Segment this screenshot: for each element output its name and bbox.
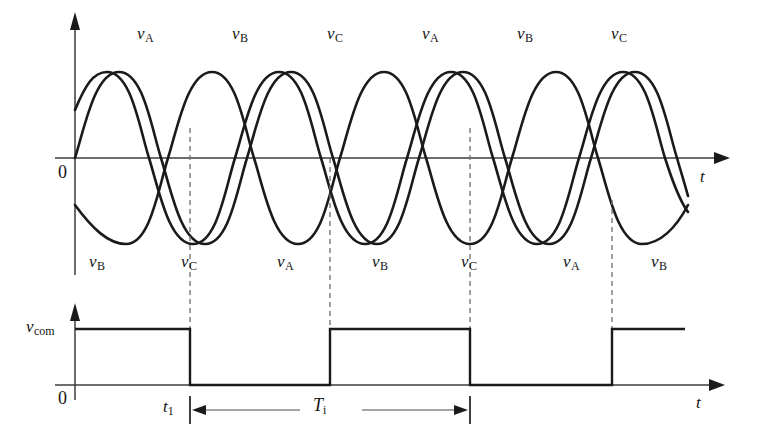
trough-label-vc-2: vC — [461, 253, 477, 272]
top-origin-label: 0 — [58, 163, 67, 181]
bottom-time-axis-label: t — [696, 394, 701, 411]
top-time-axis-arrow — [714, 152, 730, 164]
ti-dim-arrow-left — [192, 405, 206, 415]
peak-label-vb-2: vB — [517, 25, 533, 44]
peak-label-vc-2: vC — [611, 25, 627, 44]
bottom-panel-axes — [55, 303, 725, 400]
waveform-canvas — [0, 0, 767, 443]
trough-label-vb-2: vB — [372, 253, 388, 272]
vcom-axis-label: vcom — [26, 318, 55, 337]
ti-dim-arrow-right — [454, 405, 468, 415]
ti-annotation-label: Ti — [313, 396, 326, 416]
bottom-vertical-axis-arrow — [70, 303, 80, 321]
bottom-origin-label: 0 — [58, 389, 67, 407]
trough-label-vb-3: vB — [651, 253, 667, 272]
bottom-time-axis-arrow — [709, 379, 725, 391]
ti-dimension-line — [190, 396, 470, 424]
peak-label-vb-1: vB — [232, 25, 248, 44]
peak-label-va-2: vA — [422, 25, 439, 44]
waveform-figure: vA vB vC vA vB vC vB vC vA vB vC vA vB 0… — [0, 0, 767, 443]
peak-label-va-1: vA — [137, 25, 154, 44]
commutation-waveform — [75, 329, 685, 385]
top-vertical-axis-arrow — [70, 12, 80, 30]
trough-label-vb-1: vB — [89, 253, 105, 272]
t1-annotation-label: t1 — [163, 398, 174, 417]
trough-label-vc-1: vC — [181, 253, 197, 272]
trough-label-va-1: vA — [277, 253, 294, 272]
top-time-axis-label: t — [700, 168, 705, 185]
trough-label-va-2: vA — [563, 253, 580, 272]
peak-label-vc-1: vC — [327, 25, 343, 44]
